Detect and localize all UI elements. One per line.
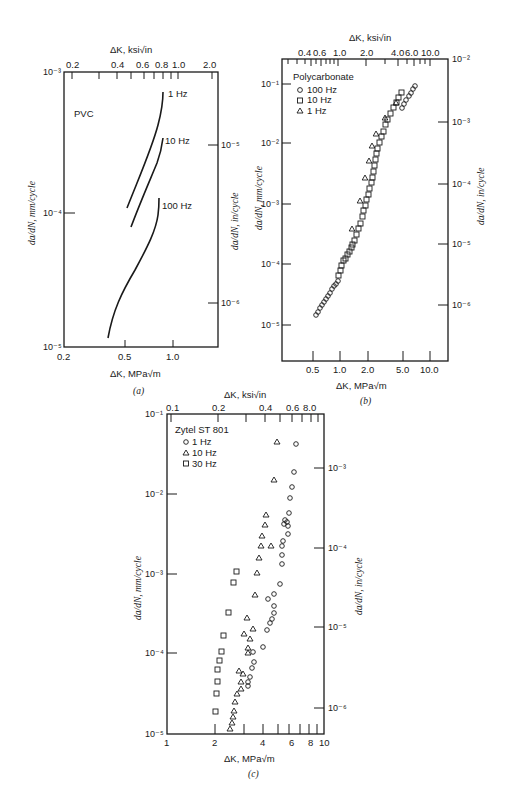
svg-text:10⁻⁴: 10⁻⁴ (328, 543, 347, 553)
chart-a-left-tick-labels: 10⁻³ 10⁻⁴ 10⁻⁵ (43, 67, 75, 352)
svg-text:10⁻⁵: 10⁻⁵ (221, 140, 240, 150)
curve-label-10hz: 10 Hz (165, 135, 190, 146)
curve-label-1hz: 1 Hz (168, 88, 188, 99)
chart-c-material-label: Zytel ST 801 (175, 424, 229, 435)
svg-text:0.8: 0.8 (155, 59, 168, 70)
svg-text:10⁻¹: 10⁻¹ (261, 79, 279, 89)
svg-text:8: 8 (308, 737, 313, 748)
svg-text:10⁻⁵: 10⁻⁵ (261, 320, 280, 330)
chart-b-series-100hz (314, 84, 418, 318)
svg-text:4: 4 (260, 737, 265, 748)
chart-c-bottom-axis-title: ΔK, MPa√m (224, 753, 275, 764)
figure-canvas: ΔK, ksi√in 0.2 0.4 0.6 0.8 1.0 2.0 10⁻³ (0, 0, 507, 799)
legend-square-icon (298, 98, 303, 103)
legend-triangle-icon (297, 108, 303, 113)
svg-text:6: 6 (289, 737, 294, 748)
svg-text:10.0: 10.0 (421, 47, 440, 58)
svg-text:10⁻⁶: 10⁻⁶ (328, 703, 347, 713)
chart-a-material-label: PVC (74, 108, 94, 119)
svg-text:0.6: 0.6 (136, 59, 149, 70)
svg-text:4.0: 4.0 (391, 47, 404, 58)
svg-text:0.5: 0.5 (118, 351, 131, 362)
svg-text:30 Hz: 30 Hz (192, 458, 217, 469)
svg-text:10⁻²: 10⁻² (261, 138, 279, 148)
chart-b-series-10hz (336, 90, 404, 278)
chart-a-bottom-axis-title: ΔK, MPa√m (110, 368, 161, 379)
svg-text:1.0: 1.0 (333, 364, 346, 375)
svg-text:10⁻⁴: 10⁻⁴ (145, 648, 164, 658)
chart-b-series-1hz (349, 100, 399, 231)
svg-text:1 Hz: 1 Hz (307, 105, 327, 116)
svg-text:0.6: 0.6 (313, 47, 326, 58)
chart-b-bottom-axis-title: ΔK, MPa√m (336, 380, 387, 391)
curve-label-100hz: 100 Hz (162, 200, 192, 211)
chart-b-left-axis-title: da/dN, mm/cycle (254, 166, 264, 230)
svg-text:0.2: 0.2 (212, 402, 225, 413)
svg-text:10⁻³: 10⁻³ (452, 117, 470, 127)
svg-text:0.5: 0.5 (306, 364, 319, 375)
svg-text:0.2: 0.2 (66, 59, 79, 70)
svg-text:10⁻³: 10⁻³ (145, 569, 163, 579)
svg-text:10⁻²: 10⁻² (145, 489, 163, 499)
svg-text:10⁻²: 10⁻² (452, 54, 470, 64)
svg-text:10⁻³: 10⁻³ (328, 463, 346, 473)
chart-a-top-tick-labels: 0.2 0.4 0.6 0.8 1.0 2.0 (66, 59, 216, 70)
chart-b-caption: (b) (360, 396, 371, 407)
svg-text:0.1: 0.1 (166, 402, 179, 413)
chart-c-top-ticks (171, 414, 318, 422)
chart-b-bottom-ticks: 0.5 1.0 2.0 5.0 10.0 (306, 351, 439, 375)
chart-b-material-label: Polycarbonate (293, 71, 354, 82)
legend-circle-icon (184, 440, 189, 445)
svg-text:1.0: 1.0 (333, 47, 346, 58)
chart-c-right-axis-title: da/dN, in/cycle (354, 557, 364, 615)
svg-text:10⁻³: 10⁻³ (43, 67, 61, 77)
chart-b-legend: Polycarbonate 100 Hz 10 Hz 1 Hz (293, 71, 354, 116)
svg-text:1 Hz: 1 Hz (192, 436, 212, 447)
svg-text:10: 10 (319, 737, 330, 748)
svg-text:10⁻⁴: 10⁻⁴ (452, 179, 471, 189)
chart-b-polycarbonate: ΔK, ksi√in 0.4 0.6 1.0 2.0 4.0 6.0 10.0 (254, 32, 486, 407)
chart-a-pvc: ΔK, ksi√in 0.2 0.4 0.6 0.8 1.0 2.0 10⁻³ (27, 44, 240, 397)
svg-text:8.0: 8.0 (303, 402, 316, 413)
svg-text:10⁻⁶: 10⁻⁶ (221, 298, 240, 308)
chart-a-top-ticks (72, 72, 212, 79)
chart-a-bottom-ticks: 0.2 0.5 1.0 (57, 340, 179, 362)
chart-b-top-ticks (288, 59, 430, 66)
chart-c-series-1hz (246, 442, 299, 689)
svg-text:1: 1 (164, 737, 169, 748)
legend-triangle-icon (183, 450, 189, 455)
svg-text:1.0: 1.0 (172, 59, 185, 70)
svg-text:0.6: 0.6 (286, 402, 299, 413)
svg-text:1.0: 1.0 (166, 351, 179, 362)
chart-a-top-axis-title: ΔK, ksi√in (110, 44, 152, 55)
svg-text:2.0: 2.0 (361, 364, 374, 375)
chart-a-left-axis-title: da/dN, mm/cycle (27, 181, 37, 245)
chart-c-right-tick-labels: 10⁻³ 10⁻⁴ 10⁻⁵ 10⁻⁶ (314, 463, 347, 713)
svg-text:0.4: 0.4 (259, 402, 272, 413)
svg-text:10.0: 10.0 (420, 364, 439, 375)
svg-text:10⁻⁵: 10⁻⁵ (145, 729, 164, 739)
chart-b-right-tick-labels: 10⁻² 10⁻³ 10⁻⁴ 10⁻⁵ 10⁻⁶ (438, 54, 471, 310)
chart-c-left-tick-labels: 10⁻¹ 10⁻² 10⁻³ 10⁻⁴ 10⁻⁵ (145, 409, 177, 739)
svg-text:10⁻⁵: 10⁻⁵ (452, 239, 471, 249)
chart-c-top-axis-title: ΔK, ksi√in (224, 389, 266, 400)
svg-text:2.0: 2.0 (360, 47, 373, 58)
chart-b-top-axis-title: ΔK, ksi√in (349, 32, 391, 43)
svg-text:10⁻⁴: 10⁻⁴ (261, 259, 280, 269)
chart-c-bottom-ticks: 1 2 4 6 8 10 (164, 724, 330, 748)
svg-text:0.4: 0.4 (111, 59, 124, 70)
svg-text:0.4: 0.4 (298, 47, 311, 58)
legend-circle-icon (298, 88, 303, 93)
chart-c-top-tick-labels: 0.1 0.2 0.4 0.6 8.0 (166, 402, 316, 413)
svg-text:10⁻⁶: 10⁻⁶ (452, 300, 471, 310)
svg-text:10 Hz: 10 Hz (192, 447, 217, 458)
chart-a-right-axis-title: da/dN, in/cycle (230, 192, 240, 250)
svg-text:10⁻¹: 10⁻¹ (145, 409, 163, 419)
svg-text:2.0: 2.0 (203, 59, 216, 70)
svg-text:10⁻⁵: 10⁻⁵ (328, 622, 347, 632)
chart-c-legend: Zytel ST 801 1 Hz 10 Hz 30 Hz (175, 424, 229, 469)
chart-b-right-axis-title: da/dN, in/cycle (476, 167, 486, 225)
svg-text:10⁻⁴: 10⁻⁴ (43, 208, 62, 218)
chart-c-series-30hz (213, 569, 239, 714)
svg-text:6.0: 6.0 (405, 47, 418, 58)
